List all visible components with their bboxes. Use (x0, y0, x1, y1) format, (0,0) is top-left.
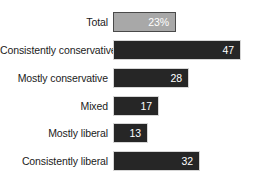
horizontal-bar-chart: Total 23% Consistently conservative 47 M… (0, 0, 259, 184)
bar-value-mostly-conservative: 28 (171, 72, 188, 84)
bar-row: Total 23% (0, 12, 259, 32)
category-label-total: Total (0, 16, 113, 28)
category-label-mostly-conservative: Mostly conservative (0, 72, 113, 84)
bar-track: 28 (113, 68, 259, 88)
category-label-consistently-conservative: Consistently conservative (0, 44, 113, 56)
bar-track: 23% (113, 12, 259, 32)
bar-mostly-conservative: 28 (113, 68, 189, 88)
bar-track: 13 (113, 123, 259, 143)
bar-value-consistently-liberal: 32 (182, 155, 199, 167)
bar-total: 23% (113, 12, 176, 32)
bar-value-mixed: 17 (141, 100, 158, 112)
bar-track: 32 (113, 151, 259, 171)
category-label-consistently-liberal: Consistently liberal (0, 155, 113, 167)
bar-consistently-conservative: 47 (113, 40, 241, 60)
bar-track: 47 (113, 40, 259, 60)
bar-row: Mostly liberal 13 (0, 123, 259, 143)
bar-track: 17 (113, 96, 259, 116)
bar-consistently-liberal: 32 (113, 151, 200, 171)
category-label-mostly-liberal: Mostly liberal (0, 127, 113, 139)
bar-value-consistently-conservative: 47 (223, 44, 240, 56)
bar-row: Consistently conservative 47 (0, 40, 259, 60)
bar-mixed: 17 (113, 96, 159, 116)
bar-value-mostly-liberal: 13 (130, 127, 147, 139)
bar-row: Mostly conservative 28 (0, 68, 259, 88)
bar-row: Mixed 17 (0, 96, 259, 116)
bar-mostly-liberal: 13 (113, 123, 148, 143)
category-label-mixed: Mixed (0, 100, 113, 112)
bar-value-total: 23% (148, 16, 175, 28)
bar-row: Consistently liberal 32 (0, 151, 259, 171)
